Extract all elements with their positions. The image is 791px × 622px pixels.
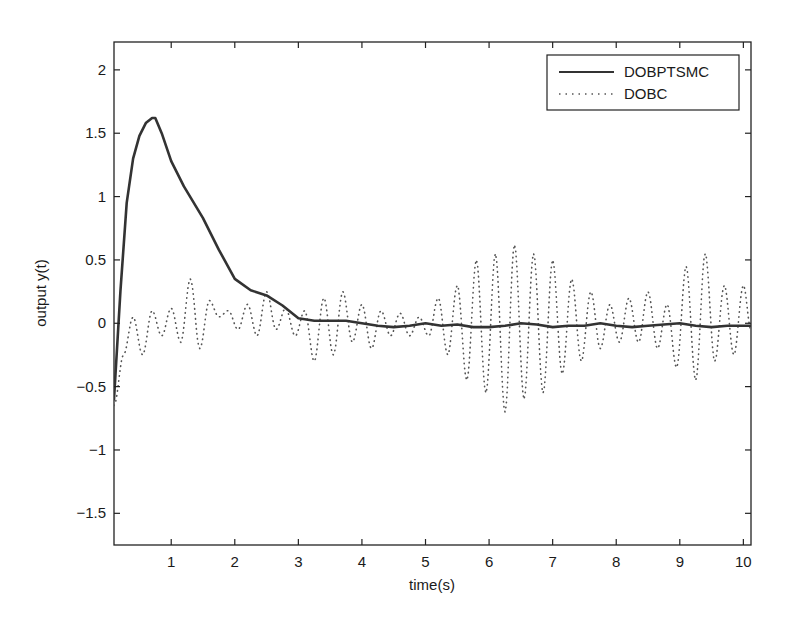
x-tick-label: 1	[167, 553, 175, 570]
y-tick-label: 0	[98, 314, 106, 331]
legend-label-dobptsmc: DOBPTSMC	[624, 63, 709, 80]
y-tick-label: −1.5	[76, 504, 106, 521]
y-axis-label: output y(t)	[32, 259, 49, 327]
legend-label-dobc: DOBC	[624, 85, 668, 102]
y-tick-label: 0.5	[85, 251, 106, 268]
x-axis-label: time(s)	[409, 576, 455, 593]
y-tick-label: 1	[98, 188, 106, 205]
x-tick-label: 4	[358, 553, 366, 570]
legend: DOBPTSMC DOBC	[547, 55, 739, 110]
chart-figure: 12345678910 −1.5−1−0.500.511.52 time(s) …	[0, 0, 791, 622]
x-tick-label: 5	[421, 553, 429, 570]
x-tick-label: 9	[676, 553, 684, 570]
x-tick-label: 6	[485, 553, 493, 570]
x-tick-label: 10	[735, 553, 752, 570]
x-tick-label: 7	[548, 553, 556, 570]
y-tick-label: −0.5	[76, 378, 106, 395]
plot-area: 12345678910 −1.5−1−0.500.511.52	[76, 42, 751, 570]
y-tick-label: 2	[98, 61, 106, 78]
y-tick-label: −1	[89, 441, 106, 458]
x-tick-label: 8	[612, 553, 620, 570]
axes-frame	[114, 42, 751, 545]
x-tick-label: 3	[294, 553, 302, 570]
y-tick-label: 1.5	[85, 124, 106, 141]
x-tick-label: 2	[231, 553, 239, 570]
